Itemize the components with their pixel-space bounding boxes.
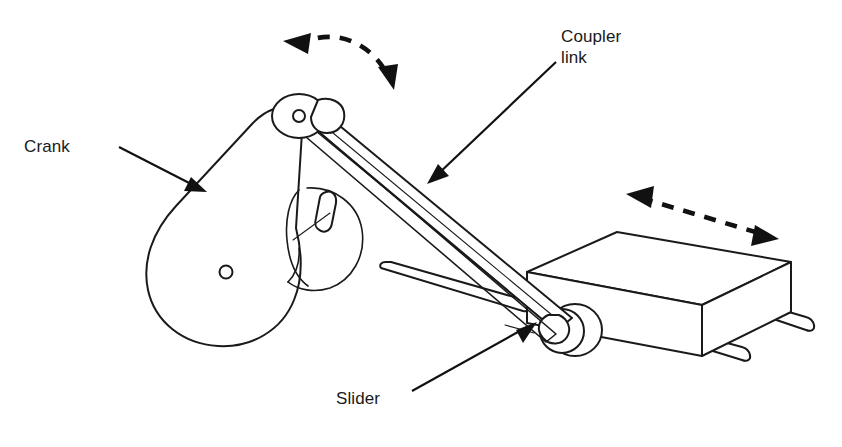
crank-rotation-arrow	[283, 33, 398, 90]
coupler-link	[299, 112, 572, 344]
label-slider: Slider	[336, 388, 380, 409]
label-coupler-link: Couplerlink	[561, 26, 621, 68]
coupler-leader	[427, 62, 556, 184]
label-crank: Crank	[24, 136, 70, 157]
label-coupler-line2: link	[561, 48, 587, 67]
crank-leader	[119, 147, 207, 192]
mechanism-drawing	[0, 0, 842, 447]
crank-pin-joint	[272, 94, 344, 138]
diagram-canvas: Crank Couplerlink Slider	[0, 0, 842, 447]
slider-leader	[412, 322, 537, 391]
label-coupler-line1: Coupler	[561, 27, 621, 46]
crank-plate	[146, 107, 302, 346]
